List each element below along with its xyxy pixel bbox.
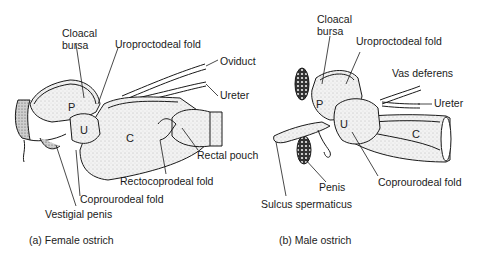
chamber-u-male: U [340, 118, 348, 130]
label-ureter-male: Ureter [434, 97, 463, 109]
label-uroproctodeal-fold-female: Uroproctodeal fold [115, 38, 201, 50]
label-penis: Penis [319, 181, 345, 193]
label-coprourodeal-fold-male: Coprourodeal fold [378, 176, 461, 188]
label-cloacal-bursa-male-1: Cloacal [317, 13, 352, 25]
chamber-p-male: P [316, 98, 323, 110]
chamber-u-female: U [80, 124, 88, 136]
label-rectal-pouch: Rectal pouch [197, 149, 258, 161]
label-rectocoprodeal-fold: Rectocoprodeal fold [120, 175, 213, 187]
label-uroproctodeal-fold-male: Uroproctodeal fold [356, 35, 442, 47]
label-cloacal-bursa-female-2: bursa [62, 39, 88, 51]
label-coprourodeal-fold-female: Coprourodeal fold [80, 193, 163, 205]
label-vas-deferens: Vas deferens [392, 67, 453, 79]
chamber-c-male: C [412, 128, 420, 140]
chamber-p-female: P [68, 101, 75, 113]
label-oviduct: Oviduct [220, 55, 256, 67]
label-cloacal-bursa-female-1: Cloacal [62, 27, 97, 39]
caption-female: (a) Female ostrich [29, 234, 114, 246]
chamber-c-female: C [126, 132, 134, 144]
label-ureter-female: Ureter [220, 89, 249, 101]
label-sulcus-spermaticus: Sulcus spermaticus [261, 198, 352, 210]
caption-male: (b) Male ostrich [279, 234, 351, 246]
female-ostrich-drawing [15, 64, 222, 180]
label-cloacal-bursa-male-2: bursa [317, 25, 343, 37]
label-vestigial-penis: Vestigial penis [45, 208, 112, 220]
